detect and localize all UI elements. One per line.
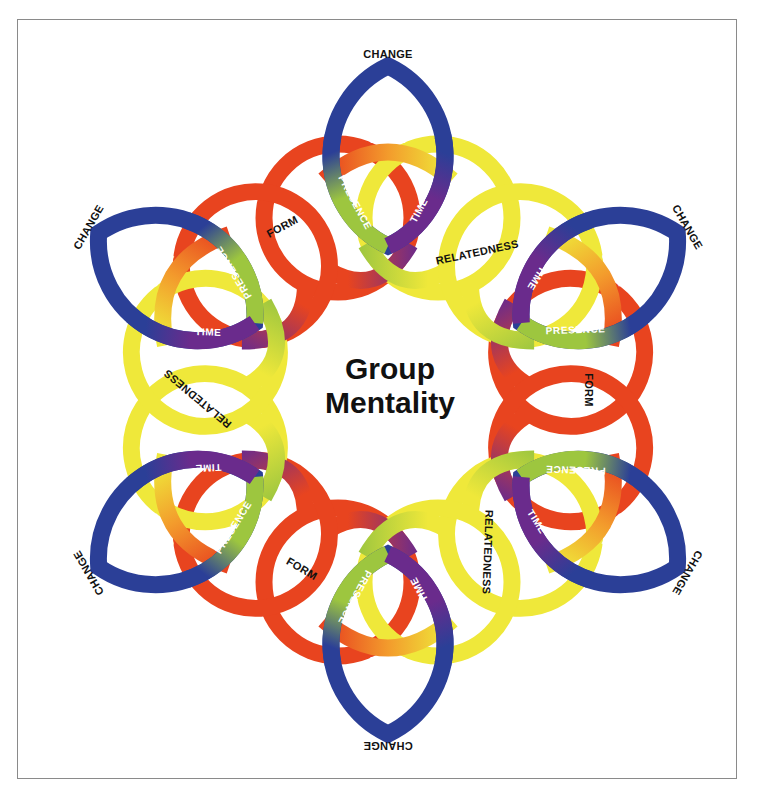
time-label: TIME	[195, 326, 222, 338]
presence-label: PRESENCE	[546, 323, 606, 336]
title-line-1: Group	[290, 352, 490, 386]
crossing-label-bottom-left: FORM	[284, 555, 319, 582]
title-line-2: Mentality	[290, 386, 490, 420]
center-title: Group Mentality	[290, 352, 490, 420]
time-label: TIME	[195, 462, 222, 474]
change-label: CHANGE	[363, 48, 412, 60]
node-rings	[264, 508, 512, 734]
change-label: CHANGE	[363, 740, 412, 752]
presence-label: PRESENCE	[546, 464, 606, 477]
space-label: SPACE	[370, 134, 407, 145]
crossing-label-right: FORM	[583, 373, 595, 407]
node-bottom: CHANGESPACEPRESENCETIME	[264, 508, 512, 752]
space-label: SPACE	[370, 655, 407, 666]
